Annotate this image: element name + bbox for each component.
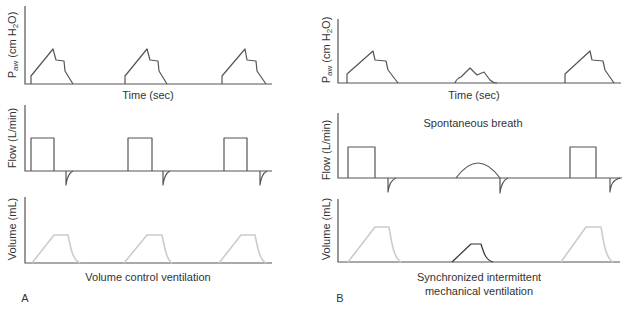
volume-axis-b — [338, 199, 620, 262]
volume-spontaneous-b2 — [452, 244, 493, 262]
flow-inspiration-a2 — [128, 138, 152, 171]
volume-mandatory-b1 — [348, 227, 401, 262]
pressure-breath-a1 — [31, 49, 73, 84]
panel-letter-a: A — [21, 292, 28, 304]
flow-expiration-a2 — [163, 171, 170, 185]
panel-b — [338, 19, 622, 262]
panel-a-axes — [25, 6, 272, 263]
panel-b-axes — [338, 19, 622, 262]
y-label-symbol: P — [320, 76, 332, 83]
panel-b-volume-spontaneous — [452, 244, 493, 262]
panel-letter-b: B — [336, 292, 343, 304]
panel-a-volume-traces — [32, 235, 266, 263]
time-x-label-b: Time (sec) — [448, 89, 500, 101]
flow-y-label-a: Flow (L/min) — [6, 108, 18, 169]
caption-b: Synchronized intermittent mechanical ven… — [417, 270, 541, 298]
y-label-unit-end: O) — [6, 12, 18, 24]
pressure-spontaneous-b2 — [455, 68, 497, 83]
panel-a — [25, 6, 272, 263]
pressure-breath-a2 — [125, 49, 167, 84]
y-label-symbol: P — [6, 71, 18, 78]
caption-b-line-1: Synchronized intermittent — [417, 270, 541, 284]
time-x-label-a: Time (sec) — [122, 89, 174, 101]
pressure-y-label-b: Paw (cm H2O) — [320, 17, 332, 84]
volume-mandatory-a3 — [219, 235, 266, 263]
volume-y-label-a: Volume (mL) — [6, 198, 18, 260]
volume-mandatory-a2 — [124, 235, 172, 263]
volume-mandatory-b3 — [561, 227, 613, 262]
y-label-unit: (cm H — [6, 28, 18, 60]
ventilation-waveform-figure — [0, 0, 626, 310]
y-label-subscript: aw — [325, 66, 334, 76]
y-label-subscript-2: 2 — [11, 24, 20, 28]
flow-inspiration-a1 — [31, 138, 54, 171]
flow-expiration-b2 — [500, 178, 508, 193]
flow-expiration-b3 — [610, 178, 620, 192]
pressure-breath-b3 — [565, 51, 614, 83]
y-label-subscript: aw — [11, 61, 20, 71]
pressure-axis-a — [25, 6, 272, 84]
panel-a-traces — [31, 49, 267, 185]
pressure-breath-a3 — [222, 49, 266, 84]
flow-expiration-b1 — [388, 178, 396, 192]
volume-mandatory-a1 — [32, 235, 80, 263]
y-label-subscript-2: 2 — [325, 29, 334, 33]
y-label-unit-end: O) — [320, 17, 332, 29]
flow-expiration-a1 — [66, 171, 73, 185]
caption-b-line-2: mechanical ventilation — [417, 284, 541, 298]
flow-inspiration-a3 — [224, 138, 247, 171]
volume-y-label-b: Volume (mL) — [320, 198, 332, 260]
caption-a: Volume control ventilation — [85, 270, 210, 284]
flow-expiration-a3 — [260, 171, 267, 185]
y-label-unit: (cm H — [320, 33, 332, 65]
flow-spontaneous-b2 — [456, 163, 500, 178]
flow-y-label-b: Flow (L/min) — [320, 120, 332, 181]
flow-inspiration-b1 — [348, 147, 375, 178]
flow-inspiration-b3 — [570, 147, 596, 178]
pressure-y-label-a: Paw (cm H2O) — [6, 12, 18, 79]
caption-a-line-1: Volume control ventilation — [85, 270, 210, 284]
spontaneous-breath-annotation: Spontaneous breath — [423, 117, 522, 129]
pressure-breath-b1 — [347, 51, 398, 83]
volume-axis-a — [25, 197, 272, 263]
